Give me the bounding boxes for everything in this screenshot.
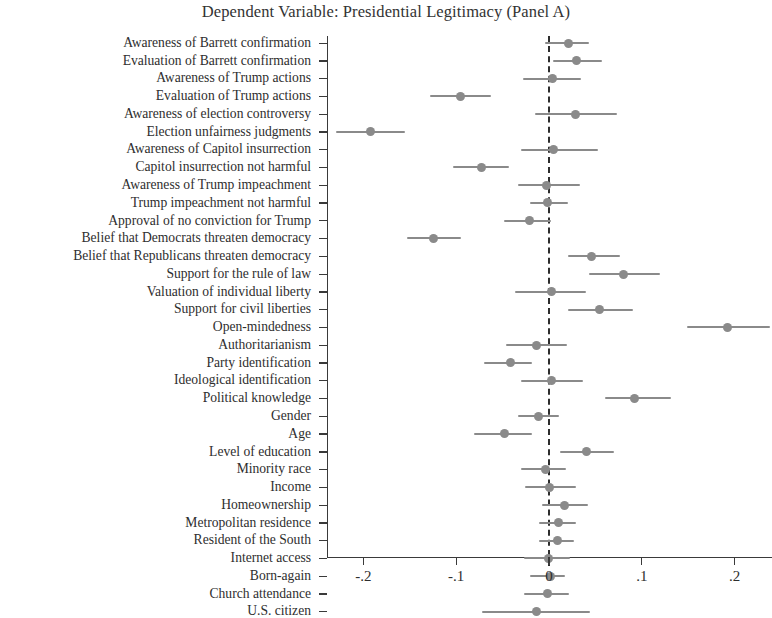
row-label: Awareness of election controversy: [124, 107, 311, 121]
y-axis-tick: [319, 522, 327, 523]
y-axis-tick: [319, 327, 327, 328]
y-axis-tick: [319, 593, 327, 594]
y-axis-tick: [319, 309, 327, 310]
y-axis-tick: [319, 416, 327, 417]
y-axis-tick: [319, 291, 327, 292]
point-estimate-marker: [534, 412, 543, 421]
row-label: Belief that Democrats threaten democracy: [82, 231, 311, 245]
point-estimate-marker: [554, 518, 563, 527]
row-label: Awareness of Barrett confirmation: [123, 36, 311, 50]
x-axis-tick-label: -.2: [333, 568, 393, 585]
point-estimate-marker: [571, 110, 580, 119]
point-estimate-marker: [595, 305, 604, 314]
y-axis-tick: [319, 238, 327, 239]
row-label: Belief that Republicans threaten democra…: [73, 249, 311, 263]
y-axis-tick: [319, 558, 327, 559]
point-estimate-marker: [587, 252, 596, 261]
y-axis-line: [327, 36, 328, 558]
row-label: Church attendance: [209, 587, 311, 601]
point-estimate-marker: [619, 270, 628, 279]
y-axis-tick: [319, 114, 327, 115]
row-label: Evaluation of Barrett confirmation: [123, 54, 311, 68]
x-axis-tick-label: -.1: [426, 568, 486, 585]
row-label: Authoritarianism: [218, 338, 311, 352]
row-label: Approval of no conviction for Trump: [108, 214, 311, 228]
row-label: Born-again: [250, 569, 311, 583]
x-axis-tick: [456, 557, 457, 565]
row-label: Valuation of individual liberty: [147, 285, 311, 299]
y-axis-tick: [319, 78, 327, 79]
row-label: Awareness of Trump impeachment: [122, 178, 311, 192]
point-estimate-marker: [547, 287, 556, 296]
point-estimate-marker: [429, 234, 438, 243]
x-axis-tick: [548, 557, 549, 565]
y-axis-tick: [319, 380, 327, 381]
point-estimate-marker: [543, 589, 552, 598]
x-axis-tick: [641, 557, 642, 565]
point-estimate-marker: [572, 56, 581, 65]
y-axis-tick: [319, 433, 327, 434]
point-estimate-marker: [549, 145, 558, 154]
y-axis-tick: [319, 167, 327, 168]
y-axis-tick: [319, 451, 327, 452]
x-axis-tick-label: 0: [519, 568, 579, 585]
y-axis-tick: [319, 131, 327, 132]
row-label: Ideological identification: [174, 373, 311, 387]
row-label: Income: [270, 480, 311, 494]
point-estimate-marker: [582, 447, 591, 456]
y-axis-tick: [319, 220, 327, 221]
point-estimate-marker: [548, 74, 557, 83]
row-label: Evaluation of Trump actions: [156, 89, 311, 103]
point-estimate-marker: [560, 501, 569, 510]
y-axis-tick: [319, 505, 327, 506]
row-label: Support for civil liberties: [174, 302, 311, 316]
point-estimate-marker: [723, 323, 732, 332]
y-axis-tick: [319, 398, 327, 399]
point-estimate-marker: [545, 483, 554, 492]
row-label: Support for the rule of law: [166, 267, 311, 281]
y-axis-tick: [319, 274, 327, 275]
row-label: Homeownership: [221, 498, 311, 512]
y-axis-tick: [319, 202, 327, 203]
row-label: Level of education: [209, 445, 311, 459]
row-label: Metropolitan residence: [185, 516, 311, 530]
row-label: Awareness of Capitol insurrection: [126, 142, 311, 156]
row-label: U.S. citizen: [247, 604, 311, 618]
point-estimate-marker: [525, 216, 534, 225]
y-axis-tick: [319, 487, 327, 488]
y-axis-tick: [319, 362, 327, 363]
row-label: Resident of the South: [194, 533, 311, 547]
x-axis-tick-label: .2: [705, 568, 765, 585]
point-estimate-marker: [630, 394, 639, 403]
row-label: Minority race: [237, 462, 311, 476]
confidence-interval-bar: [521, 149, 598, 151]
point-estimate-marker: [532, 607, 541, 616]
x-axis-tick: [734, 557, 735, 565]
point-estimate-marker: [456, 92, 465, 101]
row-label: Election unfairness judgments: [146, 125, 311, 139]
row-label: Capitol insurrection not harmful: [135, 160, 311, 174]
y-axis-tick: [319, 149, 327, 150]
point-estimate-marker: [564, 39, 573, 48]
point-estimate-marker: [543, 198, 552, 207]
y-axis-tick: [319, 43, 327, 44]
row-label: Age: [288, 427, 311, 441]
row-label: Gender: [271, 409, 311, 423]
point-estimate-marker: [542, 181, 551, 190]
point-estimate-marker: [541, 465, 550, 474]
y-axis-tick: [319, 345, 327, 346]
point-estimate-marker: [547, 376, 556, 385]
point-estimate-marker: [477, 163, 486, 172]
row-label: Awareness of Trump actions: [156, 71, 311, 85]
y-axis-tick: [319, 611, 327, 612]
y-axis-tick: [319, 576, 327, 577]
row-label: Internet access: [231, 551, 311, 565]
page-title: Dependent Variable: Presidential Legitim…: [0, 2, 772, 22]
point-estimate-marker: [553, 536, 562, 545]
y-axis-tick: [319, 185, 327, 186]
point-estimate-marker: [506, 358, 515, 367]
y-axis-tick: [319, 96, 327, 97]
y-axis-tick: [319, 540, 327, 541]
row-label: Political knowledge: [203, 391, 311, 405]
